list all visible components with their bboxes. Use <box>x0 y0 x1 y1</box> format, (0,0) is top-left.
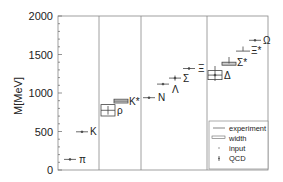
y-tick-label: 0 <box>47 164 53 176</box>
label-Omega: Ω <box>263 35 271 46</box>
legend-qcd: QCD <box>229 154 246 163</box>
y-tick-label: 1500 <box>29 49 53 61</box>
y-tick-label: 1000 <box>29 87 53 99</box>
y-tick-label: 2000 <box>29 10 53 22</box>
label-Xi: Ξ <box>198 63 205 74</box>
y-ticks <box>58 16 62 170</box>
legend-width: width <box>228 134 247 143</box>
label-Sigmastar: Σ* <box>237 57 247 68</box>
label-rho: ρ <box>117 105 123 116</box>
label-Lambda: Λ <box>172 84 179 95</box>
label-Kstar: K* <box>129 96 140 107</box>
label-K: K <box>90 126 97 137</box>
legend-input: input <box>229 144 246 153</box>
label-Xistar: Ξ* <box>251 45 261 56</box>
label-N: N <box>158 92 165 103</box>
label-Delta: Δ <box>224 70 231 81</box>
label-Sigma: Σ <box>183 73 189 84</box>
panel-vector <box>101 99 128 116</box>
legend-experiment: experiment <box>229 124 267 133</box>
hadron-mass-chart: 0 500 1000 1500 2000 M[MeV] π K ρ K* N Λ… <box>0 0 283 182</box>
y-tick-label: 500 <box>35 126 53 138</box>
y-axis-label: M[MeV] <box>12 77 24 115</box>
label-pi: π <box>79 154 86 165</box>
